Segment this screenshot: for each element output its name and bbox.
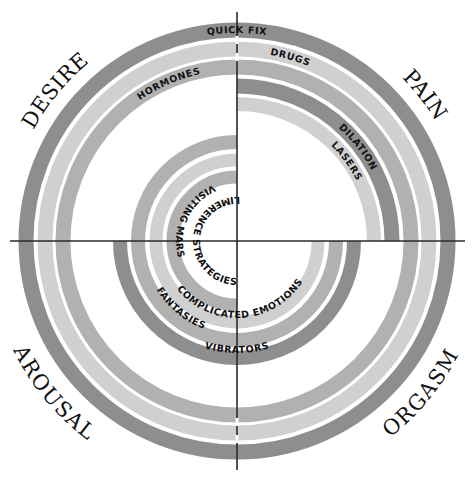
concentric-arc-diagram: QUICK FIX DRUGS HORMONES DILATION LASERS… [0,0,476,489]
